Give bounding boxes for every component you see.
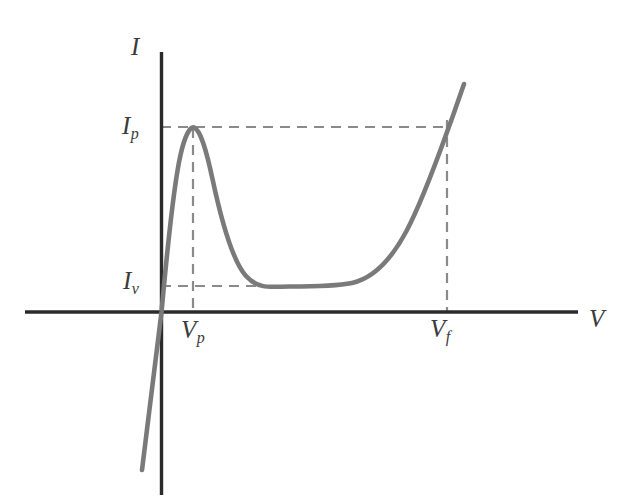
iv-curve — [142, 84, 464, 470]
valley-current-label-sub: v — [132, 280, 139, 297]
valley-current-label: Iv — [123, 268, 139, 297]
iv-characteristic-figure: I Ip Iv Vp Vf V — [0, 0, 635, 503]
peak-voltage-label: Vp — [181, 317, 205, 346]
forward-voltage-label: Vf — [430, 316, 450, 345]
peak-voltage-label-base: V — [181, 316, 196, 343]
y-axis-label: I — [131, 34, 140, 63]
forward-voltage-label-sub: f — [446, 328, 450, 345]
x-axis-label-base: V — [589, 305, 604, 332]
y-axis-label-base: I — [131, 33, 139, 60]
x-axis-label: V — [589, 306, 605, 335]
axes — [25, 52, 578, 495]
iv-curve-path — [142, 84, 464, 470]
peak-current-label: Ip — [122, 113, 139, 142]
peak-current-label-sub: p — [131, 125, 139, 142]
peak-current-label-base: I — [122, 112, 130, 139]
valley-current-label-base: I — [123, 267, 131, 294]
forward-voltage-label-base: V — [430, 315, 445, 342]
plot-canvas — [0, 0, 635, 503]
peak-voltage-label-sub: p — [197, 329, 205, 346]
